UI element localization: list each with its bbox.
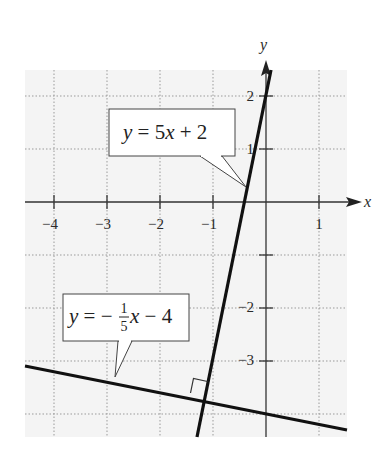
x-tick-label: −1 [201,216,217,232]
x-tick-label: −3 [95,216,111,232]
x-tick-label: −4 [42,216,58,232]
eq1-text: y = 5x + 2 [121,120,207,144]
eq2-fraction-denominator: 5 [121,319,128,334]
eq2-text-right: x − 4 [129,304,173,328]
y-tick-label: 2 [247,88,255,104]
x-tick-label: 1 [315,216,323,232]
y-tick-label: −3 [238,352,254,368]
eq2-text-left: y = − [67,304,113,328]
y-axis-label: y [258,36,268,54]
chart: −4 −3 −2 −1 1 2 1 −2 −3 x y y = 5x + 2 y… [0,0,390,465]
y-tick-label: −2 [238,299,254,315]
x-tick-label: −2 [148,216,164,232]
eq2-fraction-numerator: 1 [121,301,128,316]
x-axis-label: x [363,193,371,210]
